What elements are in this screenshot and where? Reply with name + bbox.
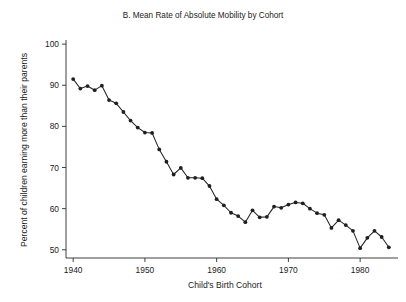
- data-point: [136, 126, 140, 130]
- data-point: [344, 223, 348, 227]
- data-point: [93, 88, 97, 92]
- x-tick-label: 1960: [207, 265, 226, 275]
- data-point: [251, 208, 255, 212]
- data-point: [373, 229, 377, 233]
- data-point: [215, 197, 219, 201]
- data-point: [86, 84, 90, 88]
- data-point: [143, 131, 147, 135]
- data-series: [71, 77, 390, 250]
- chart-title: B. Mean Rate of Absolute Mobility by Coh…: [123, 11, 284, 20]
- mobility-markers: [71, 77, 390, 250]
- x-tick-label: 1980: [351, 265, 370, 275]
- data-point: [129, 119, 133, 123]
- mobility-line: [73, 79, 389, 248]
- y-axis: 5060708090100: [45, 39, 66, 258]
- data-point: [380, 235, 384, 239]
- data-point: [243, 220, 247, 224]
- x-tick-label: 1940: [64, 265, 83, 275]
- data-point: [294, 201, 298, 205]
- x-axis: 19401950196019701980: [64, 258, 398, 275]
- data-point: [258, 215, 262, 219]
- data-point: [351, 229, 355, 233]
- data-point: [121, 110, 125, 114]
- y-tick-label: 50: [50, 245, 60, 255]
- x-axis-title: Child's Birth Cohort: [188, 280, 262, 290]
- data-point: [107, 98, 111, 102]
- data-point: [279, 206, 283, 210]
- y-tick-label: 80: [50, 121, 60, 131]
- data-point: [286, 203, 290, 207]
- data-point: [236, 214, 240, 218]
- data-point: [71, 77, 75, 81]
- data-point: [365, 236, 369, 240]
- data-point: [322, 213, 326, 217]
- data-point: [193, 176, 197, 180]
- x-tick-label: 1950: [136, 265, 155, 275]
- data-point: [301, 201, 305, 205]
- data-point: [265, 215, 269, 219]
- data-point: [330, 226, 334, 230]
- data-point: [165, 160, 169, 164]
- x-axis-ticks: 19401950196019701980: [64, 258, 370, 275]
- y-tick-label: 100: [45, 39, 59, 49]
- y-tick-label: 70: [50, 163, 60, 173]
- data-point: [337, 218, 341, 222]
- data-point: [172, 173, 176, 177]
- y-axis-ticks: 5060708090100: [45, 39, 66, 255]
- data-point: [200, 176, 204, 180]
- y-axis-title: Percent of children earning more than th…: [19, 53, 29, 247]
- data-point: [208, 184, 212, 188]
- y-tick-label: 60: [50, 204, 60, 214]
- x-tick-label: 1970: [279, 265, 298, 275]
- data-point: [100, 84, 104, 88]
- data-point: [308, 207, 312, 211]
- chart-canvas: B. Mean Rate of Absolute Mobility by Coh…: [0, 0, 406, 302]
- data-point: [272, 205, 276, 209]
- data-point: [157, 148, 161, 152]
- data-point: [229, 211, 233, 215]
- data-point: [179, 166, 183, 170]
- data-point: [78, 87, 82, 91]
- data-point: [114, 101, 118, 105]
- data-point: [387, 245, 391, 249]
- y-tick-label: 90: [50, 80, 60, 90]
- data-point: [150, 131, 154, 135]
- data-point: [315, 211, 319, 215]
- data-point: [358, 246, 362, 250]
- data-point: [222, 203, 226, 207]
- data-point: [186, 176, 190, 180]
- mobility-chart-figure: B. Mean Rate of Absolute Mobility by Coh…: [0, 0, 406, 302]
